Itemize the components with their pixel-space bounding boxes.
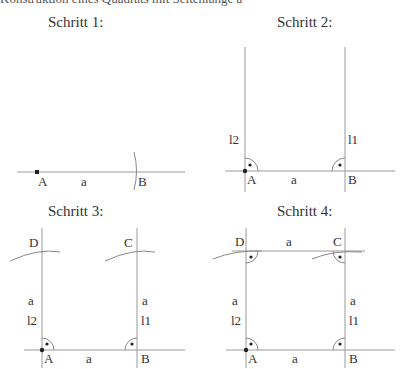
right-angle-dot-b xyxy=(130,342,133,345)
label-side-a: a xyxy=(291,172,297,187)
label-d-point: D xyxy=(235,234,244,249)
compass-arc-d xyxy=(10,251,60,261)
label-b-point: B xyxy=(138,174,147,189)
label-side-a-bottom: a xyxy=(86,351,92,366)
label-side-a-left: a xyxy=(232,293,238,308)
compass-arc-b xyxy=(134,152,137,190)
label-side-a-right: a xyxy=(142,293,148,308)
label-b-point: B xyxy=(348,172,357,187)
step-3-figure: D C a l2 a l1 A a B xyxy=(10,228,185,368)
label-side-a-left: a xyxy=(28,293,34,308)
label-b-point: B xyxy=(349,351,358,366)
right-angle-dot-b xyxy=(338,342,341,345)
step-2-figure: l2 l1 A a B xyxy=(225,47,395,192)
label-l1: l1 xyxy=(349,313,359,328)
right-angle-dot-d xyxy=(249,255,252,258)
right-angle-dot-c xyxy=(338,255,341,258)
label-c-point: C xyxy=(124,235,133,250)
right-angle-dot-a xyxy=(248,163,251,166)
label-d-point: D xyxy=(29,235,38,250)
label-a-point: A xyxy=(38,174,48,189)
right-angle-dot-a xyxy=(249,342,252,345)
label-side-a-top: a xyxy=(286,234,292,249)
right-angle-dot-a xyxy=(45,342,48,345)
label-c-point: C xyxy=(333,234,342,249)
compass-arc-c xyxy=(312,252,362,259)
step-4-figure: D a C a l2 a l1 A a B xyxy=(213,228,395,368)
label-side-a-bottom: a xyxy=(292,351,298,366)
label-l2: l2 xyxy=(27,313,37,328)
label-l2: l2 xyxy=(229,132,239,147)
compass-arc-d xyxy=(213,251,262,259)
compass-arc-c xyxy=(105,251,155,261)
label-l1: l1 xyxy=(141,313,151,328)
label-side-a-right: a xyxy=(350,293,356,308)
label-side-a: a xyxy=(81,174,87,189)
label-l2: l2 xyxy=(231,313,241,328)
label-a-point: A xyxy=(44,351,54,366)
label-l1: l1 xyxy=(348,132,358,147)
step-1-figure: A a B xyxy=(17,152,185,190)
label-a-point: A xyxy=(247,172,257,187)
right-angle-dot-b xyxy=(338,163,341,166)
label-b-point: B xyxy=(141,351,150,366)
construction-diagram: A a B l2 l1 A a B D C a l2 a l1 A xyxy=(0,0,403,369)
label-a-point: A xyxy=(248,351,258,366)
